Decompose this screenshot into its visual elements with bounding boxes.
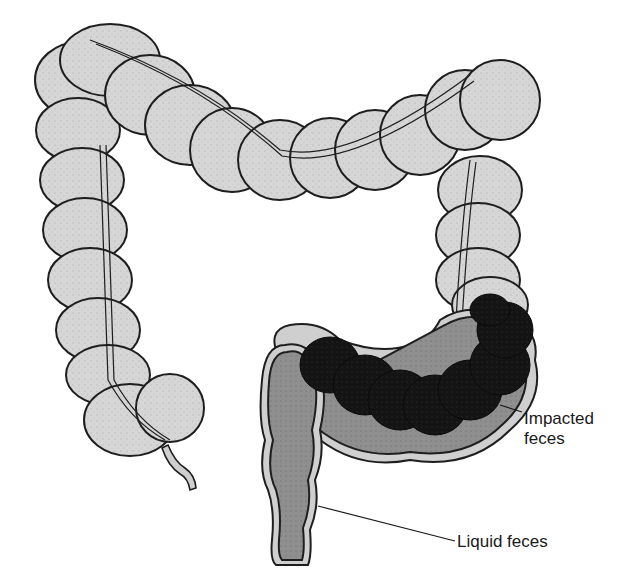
colon-illustration: [0, 0, 640, 582]
impacted-label-line1: Impacted: [524, 409, 614, 429]
colon-diagram: Impacted feces Liquid feces: [0, 0, 640, 582]
appendix: [162, 445, 196, 490]
impacted-feces-label: Impacted feces: [524, 409, 614, 449]
liquid-leader-line: [318, 506, 455, 541]
liquid-feces-label: Liquid feces: [457, 532, 548, 552]
impacted-label-line2: feces: [524, 429, 614, 449]
